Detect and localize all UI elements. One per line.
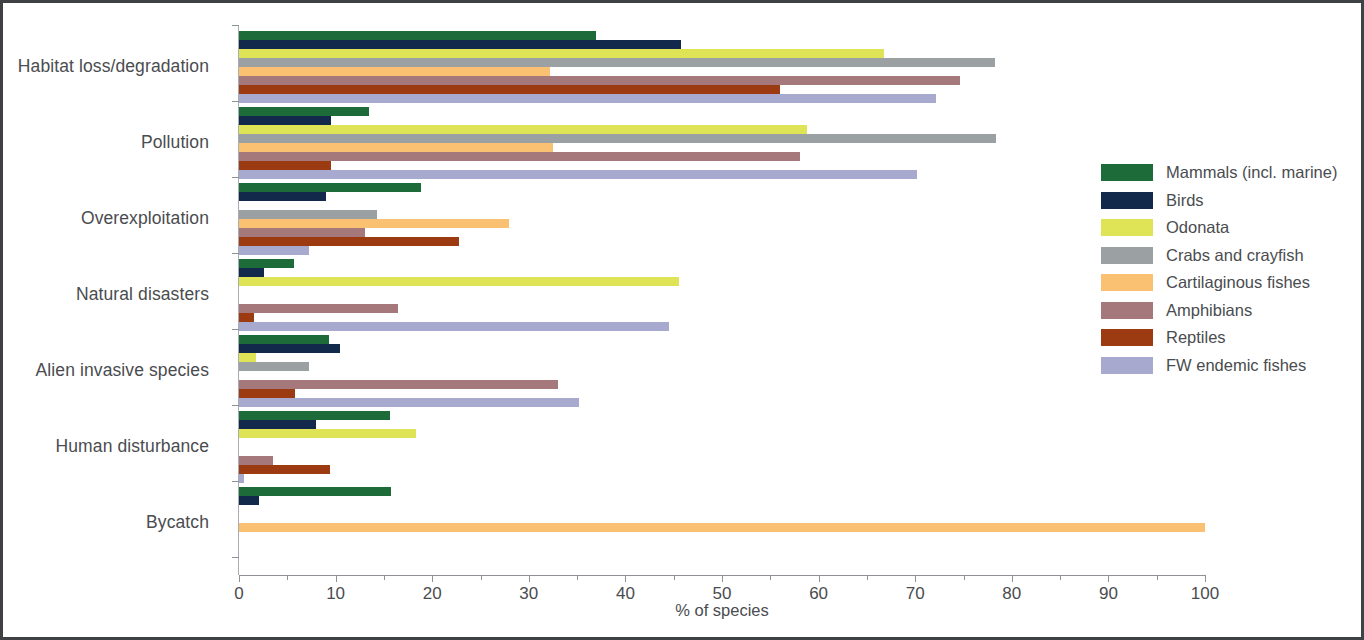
bar-row	[239, 134, 1205, 143]
bar-group	[239, 259, 1205, 331]
bar-row	[239, 532, 1205, 541]
bar-row	[239, 246, 1205, 255]
bar-row	[239, 313, 1205, 322]
x-axis-minor-tick	[1060, 575, 1061, 580]
bar-row	[239, 447, 1205, 456]
x-axis-minor-tick	[384, 575, 385, 580]
chart-figure: 0102030405060708090100 % of species Mamm…	[0, 0, 1364, 640]
bar-row	[239, 438, 1205, 447]
bar	[239, 183, 421, 192]
legend-item: Odonata	[1101, 214, 1337, 242]
bar	[239, 152, 800, 161]
bar	[239, 465, 330, 474]
x-axis-tick	[239, 575, 240, 582]
x-axis-tick	[722, 575, 723, 582]
plot-area	[239, 25, 1205, 575]
legend-item: Mammals (incl. marine)	[1101, 159, 1337, 187]
bar-row	[239, 420, 1205, 429]
x-axis-tick	[1012, 575, 1013, 582]
bar	[239, 277, 679, 286]
bar	[239, 237, 459, 246]
bar-row	[239, 161, 1205, 170]
legend-item: FW endemic fishes	[1101, 352, 1337, 380]
bar	[239, 474, 244, 483]
bar-row	[239, 201, 1205, 210]
bar-row	[239, 237, 1205, 246]
x-axis-minor-tick	[964, 575, 965, 580]
bar	[239, 344, 340, 353]
x-axis-tick	[336, 575, 337, 582]
bar-row	[239, 268, 1205, 277]
bar	[239, 107, 369, 116]
bar	[239, 125, 807, 134]
bar	[239, 335, 329, 344]
bar-row	[239, 541, 1205, 550]
bar-row	[239, 514, 1205, 523]
bar-row	[239, 277, 1205, 286]
y-axis-tick	[232, 25, 239, 26]
category-label-natural-disasters: Natural disasters	[76, 284, 209, 305]
chart-legend: Mammals (incl. marine)BirdsOdonataCrabs …	[1101, 159, 1337, 379]
y-axis-tick	[232, 557, 239, 558]
legend-label: FW endemic fishes	[1166, 356, 1306, 375]
bar	[239, 268, 264, 277]
bar	[239, 58, 995, 67]
bar-group	[239, 183, 1205, 255]
bar-row	[239, 371, 1205, 380]
bar	[239, 134, 996, 143]
legend-swatch-icon	[1101, 357, 1153, 374]
x-axis-tick	[432, 575, 433, 582]
legend-item: Amphibians	[1101, 297, 1337, 325]
x-axis-tick	[529, 575, 530, 582]
bar	[239, 259, 294, 268]
bar-group	[239, 335, 1205, 407]
bar	[239, 411, 390, 420]
bar	[239, 161, 331, 170]
bar-row	[239, 85, 1205, 94]
bar-row	[239, 67, 1205, 76]
legend-swatch-icon	[1101, 192, 1153, 209]
bar	[239, 94, 936, 103]
bar	[239, 49, 884, 58]
bar-row	[239, 353, 1205, 362]
category-label-human-disturbance: Human disturbance	[56, 436, 209, 457]
y-axis-tick	[232, 253, 239, 254]
category-label-habitat-loss-degradation: Habitat loss/degradation	[18, 56, 209, 77]
bar	[239, 170, 917, 179]
bar-row	[239, 210, 1205, 219]
bar	[239, 380, 558, 389]
bar-row	[239, 116, 1205, 125]
bar	[239, 304, 398, 313]
x-axis-tick	[625, 575, 626, 582]
bar	[239, 40, 681, 49]
legend-swatch-icon	[1101, 274, 1153, 291]
bar-row	[239, 107, 1205, 116]
category-label-bycatch: Bycatch	[146, 512, 209, 533]
bar-row	[239, 125, 1205, 134]
legend-item: Birds	[1101, 187, 1337, 215]
y-axis-tick	[232, 329, 239, 330]
legend-swatch-icon	[1101, 164, 1153, 181]
category-label-alien-invasive-species: Alien invasive species	[36, 360, 209, 381]
bar-row	[239, 58, 1205, 67]
category-label-overexploitation: Overexploitation	[81, 208, 209, 229]
x-axis-tick	[1205, 575, 1206, 582]
y-axis-tick	[232, 177, 239, 178]
legend-swatch-icon	[1101, 219, 1153, 236]
bar-row	[239, 183, 1205, 192]
bar	[239, 192, 326, 201]
legend-swatch-icon	[1101, 247, 1153, 264]
bar-row	[239, 170, 1205, 179]
x-axis-tick	[819, 575, 820, 582]
bar-row	[239, 389, 1205, 398]
bar-row	[239, 49, 1205, 58]
legend-label: Birds	[1166, 191, 1204, 210]
legend-label: Reptiles	[1166, 328, 1226, 347]
y-axis-tick	[232, 405, 239, 406]
legend-item: Crabs and crayfish	[1101, 242, 1337, 270]
bar-row	[239, 380, 1205, 389]
bar-row	[239, 411, 1205, 420]
bar-row	[239, 322, 1205, 331]
legend-label: Odonata	[1166, 218, 1229, 237]
bar-group	[239, 411, 1205, 483]
